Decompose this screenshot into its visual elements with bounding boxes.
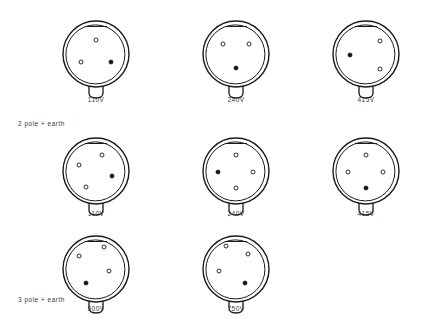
pin-right-open — [107, 269, 111, 273]
pin-bottom-left-open — [84, 185, 88, 189]
connector-inner-ring — [206, 240, 265, 299]
pin-lower-left-open — [79, 60, 83, 64]
pin-upper-right-open — [378, 39, 382, 43]
pin-top-open — [234, 153, 238, 157]
pin-top-right-open — [247, 42, 251, 46]
pin-top-open — [100, 153, 104, 157]
pin-lower-right-filled — [243, 281, 247, 285]
pin-right-open — [251, 170, 255, 174]
connector-inner-ring — [336, 25, 395, 84]
pin-lower-right-filled — [109, 60, 113, 64]
pin-top-open — [94, 38, 98, 42]
pin-right-open — [381, 170, 385, 174]
connector-240v-3pin[interactable] — [198, 14, 274, 106]
voltage-label-750v-r3: 750V — [198, 305, 274, 312]
voltage-label-500v-r3: 500V — [58, 305, 134, 312]
connector-110v-3pin[interactable] — [58, 14, 134, 106]
pin-upper-right-open — [246, 252, 250, 256]
pin-bottom-filled — [364, 186, 368, 190]
voltage-label-110v-r1: 110V — [58, 96, 134, 103]
pin-left-open — [346, 170, 350, 174]
group-label-1: 2 pole + earth — [18, 120, 65, 127]
pin-top-right-open — [102, 245, 106, 249]
voltage-label-110v-r2: 110V — [58, 210, 134, 217]
connector-inner-ring — [206, 142, 265, 201]
pin-left-open — [217, 269, 221, 273]
pin-lower-right-open — [378, 67, 382, 71]
connector-inner-ring — [66, 142, 125, 201]
pin-top-open — [364, 153, 368, 157]
pin-top-left-open — [221, 42, 225, 46]
voltage-label-240v-r2: 240V — [198, 210, 274, 217]
pin-left-filled — [216, 170, 220, 174]
connector-415v-3pin[interactable] — [328, 14, 404, 106]
connector-inner-ring — [336, 142, 395, 201]
voltage-label-240v-r1: 240V — [198, 96, 274, 103]
pin-right-filled — [110, 174, 114, 178]
connector-inner-ring — [206, 25, 265, 84]
pin-lower-left-filled — [84, 281, 88, 285]
pin-left-open — [77, 163, 81, 167]
voltage-label-415v-r2: 415V — [328, 210, 404, 217]
pin-top-left-open — [224, 244, 228, 248]
pin-upper-left-open — [77, 254, 81, 258]
connector-inner-ring — [66, 240, 125, 299]
pin-left-filled — [348, 53, 352, 57]
voltage-label-415v-r1: 415V — [328, 96, 404, 103]
connector-diagram: 2 pole + earth3 pole + earth110V240V415V… — [0, 0, 422, 327]
connector-inner-ring — [66, 25, 125, 84]
pin-bottom-filled — [234, 66, 238, 70]
pin-bottom-open — [234, 186, 238, 190]
